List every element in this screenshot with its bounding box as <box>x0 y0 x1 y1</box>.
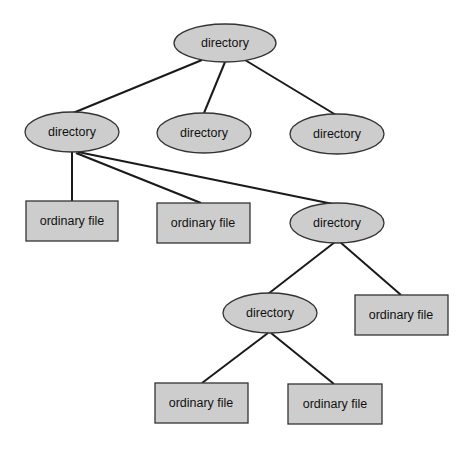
edge-d5-f4 <box>202 333 268 383</box>
directory-node-d2: directory <box>157 113 251 153</box>
directory-node-d5: directory <box>223 293 317 333</box>
edge-root-d3 <box>245 60 336 115</box>
directory-node-d4: directory <box>290 203 384 243</box>
file-node-f1: ordinary file <box>26 201 118 241</box>
node-label: directory <box>313 127 362 141</box>
node-label: directory <box>246 306 295 320</box>
file-node-f5: ordinary file <box>288 384 382 424</box>
node-label: ordinary file <box>40 214 105 228</box>
edge-root-d2 <box>204 62 225 113</box>
edge-d1-f2 <box>76 153 201 203</box>
node-label: ordinary file <box>169 396 234 410</box>
node-label: directory <box>180 126 229 140</box>
file-node-f3: ordinary file <box>355 295 448 335</box>
edge-d5-f5 <box>271 333 334 384</box>
file-node-f2: ordinary file <box>157 203 250 243</box>
directory-node-d3: directory <box>290 114 384 154</box>
node-label: ordinary file <box>303 397 368 411</box>
edge-root-d1 <box>73 60 202 113</box>
directory-node-root: directory <box>174 24 276 62</box>
node-label: ordinary file <box>171 216 236 230</box>
node-label: directory <box>201 36 250 50</box>
node-label: directory <box>48 125 97 139</box>
node-label: ordinary file <box>369 308 434 322</box>
node-label: directory <box>313 216 362 230</box>
edge-d1-d4 <box>78 152 333 204</box>
directory-node-d1: directory <box>25 112 119 152</box>
edge-d4-f3 <box>340 242 401 295</box>
file-node-f4: ordinary file <box>155 383 248 423</box>
directory-tree-diagram: directory directory directory directory … <box>0 0 474 451</box>
edge-d4-d5 <box>268 242 335 294</box>
